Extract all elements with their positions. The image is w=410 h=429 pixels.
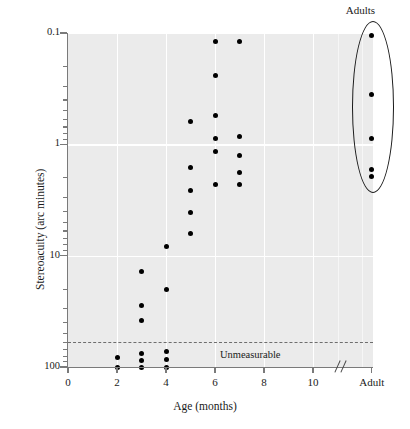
data-point xyxy=(139,358,144,363)
data-point xyxy=(188,119,193,124)
gridline-vertical xyxy=(338,33,339,367)
y-tick-minor xyxy=(63,308,68,309)
stereoacuity-scatter-figure: Unmeasurable 0.1110100 0246810Adult Adul… xyxy=(0,0,410,429)
data-point xyxy=(164,244,169,249)
y-tick-minor xyxy=(63,119,68,120)
x-tick xyxy=(263,367,264,373)
y-tick-minor xyxy=(63,230,68,231)
data-point xyxy=(139,303,144,308)
adults-group-label: Adults xyxy=(346,4,375,16)
data-point xyxy=(237,182,242,187)
y-tick-major xyxy=(60,255,67,256)
data-point xyxy=(237,153,242,158)
y-tick-major xyxy=(60,366,67,367)
data-point xyxy=(164,349,169,354)
y-tick-minor xyxy=(63,110,68,111)
x-tick-adult xyxy=(371,367,372,373)
x-tick xyxy=(165,367,166,373)
y-tick-minor xyxy=(63,333,68,334)
y-tick-label: 10 xyxy=(50,249,61,260)
gridline-vertical xyxy=(215,33,216,367)
data-point xyxy=(213,149,218,154)
data-point xyxy=(213,182,218,187)
unmeasurable-annotation: Unmeasurable xyxy=(220,349,281,360)
x-tick xyxy=(67,367,68,373)
gridline-horizontal xyxy=(68,33,373,34)
data-point xyxy=(213,73,218,78)
data-point xyxy=(139,351,144,356)
data-point xyxy=(188,231,193,236)
y-tick-minor xyxy=(63,349,68,350)
adults-group-ellipse xyxy=(352,21,394,192)
y-tick-label: 1 xyxy=(55,137,60,148)
y-tick-minor xyxy=(63,197,68,198)
x-tick-label-adult: Adult xyxy=(359,376,384,388)
gridline-vertical xyxy=(166,33,167,367)
y-tick-minor xyxy=(63,361,68,362)
y-tick-minor xyxy=(63,211,68,212)
data-point xyxy=(213,113,218,118)
y-tick-minor xyxy=(63,342,68,343)
plot-panel: Unmeasurable xyxy=(68,33,373,367)
x-tick-label: 4 xyxy=(163,376,169,388)
y-tick-minor xyxy=(63,289,68,290)
y-tick-minor xyxy=(63,244,68,245)
y-axis-title: Stereoacuity (arc minutes) xyxy=(34,169,46,290)
y-tick-label: 0.1 xyxy=(47,26,60,37)
data-point xyxy=(237,134,242,139)
y-tick-minor xyxy=(63,126,68,127)
y-tick-minor xyxy=(63,86,68,87)
y-tick-major xyxy=(60,144,67,145)
x-tick xyxy=(312,367,313,373)
data-point xyxy=(237,39,242,44)
x-tick-label: 6 xyxy=(212,376,218,388)
y-axis-line xyxy=(67,33,68,367)
x-tick xyxy=(116,367,117,373)
data-point xyxy=(188,165,193,170)
y-tick-minor xyxy=(63,139,68,140)
data-point xyxy=(188,210,193,215)
x-tick xyxy=(214,367,215,373)
data-point xyxy=(139,318,144,323)
data-point xyxy=(213,39,218,44)
y-tick-minor xyxy=(63,99,68,100)
y-tick-minor xyxy=(63,356,68,357)
y-tick-major xyxy=(60,32,67,33)
x-tick-label: 8 xyxy=(261,376,267,388)
data-point xyxy=(115,355,120,360)
gridline-vertical xyxy=(117,33,118,367)
y-tick-label: 100 xyxy=(44,360,60,371)
y-tick-minor xyxy=(63,177,68,178)
data-point xyxy=(139,269,144,274)
data-point xyxy=(188,188,193,193)
unmeasurable-threshold-line xyxy=(68,342,373,343)
gridline-horizontal xyxy=(68,256,373,257)
data-point xyxy=(164,357,169,362)
data-point xyxy=(213,136,218,141)
x-axis-title: Age (months) xyxy=(0,400,410,412)
gridline-vertical xyxy=(313,33,314,367)
x-tick-label: 0 xyxy=(65,376,71,388)
data-point xyxy=(164,287,169,292)
x-axis-line xyxy=(67,367,373,368)
y-tick-minor xyxy=(63,133,68,134)
y-tick-minor xyxy=(63,238,68,239)
gridline-horizontal xyxy=(68,144,373,145)
y-tick-minor xyxy=(63,222,68,223)
gridline-vertical xyxy=(264,33,265,367)
x-tick-label: 10 xyxy=(308,376,319,388)
y-tick-minor xyxy=(63,250,68,251)
data-point xyxy=(237,170,242,175)
y-tick-minor xyxy=(63,66,68,67)
x-tick-label: 2 xyxy=(114,376,120,388)
y-tick-minor xyxy=(63,322,68,323)
